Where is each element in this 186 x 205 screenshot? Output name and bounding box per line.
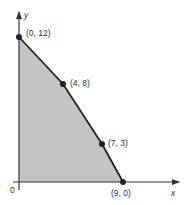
point-label-7-3: (7, 3) <box>108 139 128 148</box>
y-axis-label: y <box>24 11 28 20</box>
vertex-0-12 <box>16 34 22 40</box>
vertex-9-0 <box>120 179 126 185</box>
shaded-region <box>19 37 123 182</box>
point-label-4-8: (4, 8) <box>70 79 90 88</box>
vertex-4-8 <box>60 81 66 87</box>
feasible-region-diagram: y x 0 (0, 12) (4, 8) (7, 3) (9, 0) <box>0 0 186 205</box>
vertex-7-3 <box>99 141 105 147</box>
x-axis-label: x <box>171 189 175 198</box>
point-label-9-0: (9, 0) <box>111 189 131 198</box>
point-label-0-12: (0, 12) <box>26 29 51 38</box>
origin-label: 0 <box>10 186 15 195</box>
